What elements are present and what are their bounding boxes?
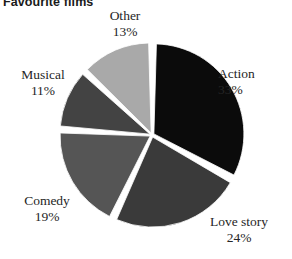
slice-label-action: Action 33% <box>218 66 288 97</box>
slice-label-other-value: 13% <box>94 24 156 40</box>
slice-label-love-story: Love story 24% <box>192 214 286 245</box>
slice-label-love-story-value: 24% <box>192 230 286 246</box>
slice-label-other-name: Other <box>94 8 156 24</box>
slice-label-other: Other 13% <box>94 8 156 39</box>
pie-slice-group <box>60 43 244 227</box>
slice-label-musical-value: 11% <box>6 83 80 99</box>
slice-label-comedy-value: 19% <box>10 209 84 225</box>
slice-label-musical: Musical 11% <box>6 67 80 98</box>
slice-label-musical-name: Musical <box>6 67 80 83</box>
slice-label-comedy-name: Comedy <box>10 193 84 209</box>
slice-label-action-name: Action <box>218 66 288 82</box>
pie-chart-figure: Favourite films Other 13% Action 33% Lov… <box>0 0 292 259</box>
slice-label-comedy: Comedy 19% <box>10 193 84 224</box>
slice-label-love-story-name: Love story <box>192 214 286 230</box>
slice-label-action-value: 33% <box>218 82 288 98</box>
